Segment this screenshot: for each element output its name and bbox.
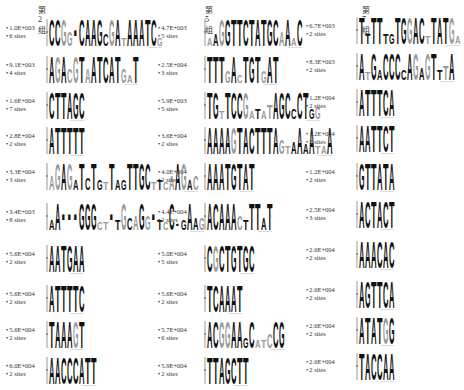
sequence-logo: CGCTGTGC [204,244,258,274]
logo-letter: G [449,11,455,52]
logo-letter: T [73,279,79,320]
sequence-logo: CCGG·CAAGCGATAAATCG [46,18,166,48]
logo-letter: T [255,50,261,91]
logo-letter: · [73,197,79,238]
sequence-logo: TACCAA [356,352,398,382]
logo-letter: G [243,335,249,351]
logo-letter: A [219,197,225,238]
logo-letter: T [207,279,213,320]
evalue-label: 6.7E+003 [306,22,335,30]
logo-letter: G [425,47,431,88]
sites-label: 7 sites [6,105,35,113]
logo-letter: A [261,215,267,233]
logo-letter: T [371,157,377,198]
logo-axis-tick [46,297,48,299]
logo-axis-tick [356,137,358,139]
logo-letter: A [85,65,91,86]
logo-letter: A [73,177,79,193]
logo-letter: C [291,106,297,122]
logo-letter: T [443,62,449,83]
logo-letter: G [219,315,225,356]
logo-axis-tick [204,333,206,335]
evalue-label: 2.6E+004 [306,246,335,254]
logo-letter: A [115,177,121,193]
sequence-logo: TTAGCTT [204,356,252,386]
logo-letter: C [401,67,407,83]
sequence-logo: TTTGACTGTGAT [204,55,282,85]
logo-letter: A [91,13,96,54]
logo-letter: T [61,279,67,320]
logo-letter: A [231,315,237,356]
logo-letter: G [139,157,145,198]
logo-letter: A [243,121,249,162]
logo-letter: T [79,121,85,162]
evalue-label: 9.1E+003 [6,61,35,69]
logo-letter: C [371,347,377,388]
logo-letter: · [67,197,73,238]
logo-letter: A [49,121,55,162]
logo-letter: G [383,311,389,352]
motif-stats: 5.6E+0042 sites [6,250,35,266]
logo-svg: AAGGTTCTATGCAAAC [204,18,306,48]
evalue-label: 5.6E+004 [6,326,35,334]
logo-letter: T [255,121,261,162]
logo-letter: A [213,157,219,198]
logo-axis-tick [46,257,48,259]
logo-letter: A [389,157,395,198]
sequence-logo: ACAAACTTTAT [204,202,276,232]
logo-axis-tick [356,175,358,177]
logo-letter: T [237,239,243,280]
motif-stats: 9.1E+0034 sites [6,61,35,77]
logo-letter: T [49,315,55,356]
sites-label: 5 sites [158,258,187,266]
logo-svg: AAATGTAT [204,162,258,192]
logo-letter: T [273,50,279,91]
logo-letter: A [291,139,297,157]
evalue-label: 5.6E+004 [158,290,187,298]
logo-letter: C [145,157,151,198]
sequence-logo: ATGACCCCAGAGTTTA [356,52,458,82]
logo-letter: C [377,235,383,276]
logo-letter: A [225,197,231,238]
logo-letter: T [383,157,389,198]
logo-letter: A [109,50,115,91]
sites-label: 2 sites [158,140,187,148]
motif-stats: 3.4E+0038 sites [6,208,35,224]
logo-letter: A [383,347,389,388]
sequence-logo: TCAAAT [204,284,246,314]
logo-letter: A [73,239,79,280]
logo-letter: T [389,119,395,160]
logo-letter: T [377,11,383,52]
logo-letter: T [249,197,255,238]
motif-stats: 2.5E+0043 sites [158,61,187,77]
sequence-logo: ATATGG [356,316,398,346]
sites-label: 2 sites [306,30,335,38]
sites-label: 2 sites [306,294,335,302]
logo-letter: G [85,197,91,238]
evalue-label: 4.7E+003 [158,24,187,32]
motif-stats: 4.0E+0042 sites [158,168,187,184]
logo-letter: A [187,177,193,193]
logo-letter: T [97,50,103,91]
logo-letter: G [139,197,145,238]
logo-letter: T [267,121,273,162]
logo-letter: G [67,28,73,49]
logo-svg: TTTGACTGTGAT [204,55,282,85]
logo-axis-tick [46,68,48,70]
logo-axis-tick [356,329,358,331]
logo-letter: C [79,13,85,54]
logo-letter: T [133,50,139,91]
logo-letter: G [407,11,413,52]
logo-letter: T [365,157,371,198]
logo-letter: T [109,157,115,198]
logo-letter: A [79,239,85,280]
sites-label: 2 sites [6,258,35,266]
logo-letter: A [359,311,365,352]
logo-letter: A [255,13,261,54]
logo-letter: G [109,13,115,54]
logo-letter: G [389,311,395,352]
logo-letter: G [279,315,285,356]
logo-letter: A [55,197,61,238]
evalue-label: 8.3E+003 [306,58,335,66]
sites-label: 2 sites [158,216,187,224]
